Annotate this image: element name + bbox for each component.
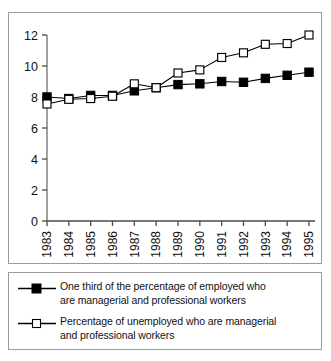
- legend-label-unemployed-line2: and professional workers: [60, 329, 174, 341]
- y-tick-label: 4: [31, 153, 38, 167]
- filled-square-marker-icon: [17, 281, 57, 296]
- legend-label-employed: One third of the percentage of employed …: [60, 280, 266, 307]
- legend-label-unemployed-line1: Percentage of unemployed who are manager…: [60, 315, 276, 327]
- data-point-marker: [261, 40, 269, 48]
- x-tick-label: 1986: [106, 231, 120, 258]
- legend-item-unemployed: Percentage of unemployed who are manager…: [17, 315, 313, 342]
- plot-panel: 024681012 198319841985198619871988198919…: [8, 12, 322, 264]
- y-tick-label: 6: [31, 122, 38, 136]
- x-tick-label: 1993: [259, 231, 273, 258]
- data-point-marker: [239, 78, 247, 86]
- data-point-marker: [305, 31, 313, 39]
- x-tick-label: 1989: [171, 231, 185, 258]
- data-series-group: [43, 31, 313, 108]
- x-tick-label: 1994: [280, 231, 294, 258]
- y-tick-label: 10: [24, 60, 38, 74]
- data-point-marker: [283, 71, 291, 79]
- data-point-marker: [130, 80, 138, 88]
- y-axis: 024681012: [24, 29, 47, 229]
- open-square-marker-icon: [17, 316, 57, 331]
- data-point-marker: [196, 66, 204, 74]
- line-chart-svg: 024681012 198319841985198619871988198919…: [9, 13, 321, 263]
- legend-label-employed-line2: are managerial and professional workers: [60, 294, 246, 306]
- data-point-marker: [174, 69, 182, 77]
- legend-panel: One third of the percentage of employed …: [8, 272, 322, 350]
- y-tick-label: 8: [31, 91, 38, 105]
- x-tick-label: 1991: [215, 231, 229, 258]
- x-tick-label: 1988: [149, 231, 163, 258]
- x-tick-label: 1985: [84, 231, 98, 258]
- data-point-marker: [152, 84, 160, 92]
- data-point-marker: [261, 74, 269, 82]
- y-tick-label: 0: [31, 215, 38, 229]
- data-point-marker: [283, 40, 291, 48]
- data-point-marker: [305, 68, 313, 76]
- data-point-marker: [196, 80, 204, 88]
- y-tick-label: 2: [31, 184, 38, 198]
- data-point-marker: [65, 95, 73, 103]
- data-point-marker: [217, 77, 225, 85]
- legend-item-employed: One third of the percentage of employed …: [17, 280, 313, 307]
- x-tick-label: 1984: [62, 231, 76, 258]
- data-point-marker: [240, 49, 248, 57]
- x-tick-label: 1995: [302, 231, 316, 258]
- legend-label-unemployed: Percentage of unemployed who are manager…: [60, 315, 276, 342]
- chart-figure: 024681012 198319841985198619871988198919…: [0, 0, 331, 361]
- data-point-marker: [218, 53, 226, 61]
- y-tick-label: 12: [24, 29, 38, 43]
- x-tick-label: 1992: [237, 231, 251, 258]
- data-point-marker: [109, 92, 117, 100]
- x-tick-label: 1987: [128, 231, 142, 258]
- data-point-marker: [87, 95, 95, 103]
- data-point-marker: [43, 100, 51, 108]
- x-tick-label: 1983: [40, 231, 54, 258]
- data-point-marker: [174, 80, 182, 88]
- legend-label-employed-line1: One third of the percentage of employed …: [60, 280, 266, 292]
- x-axis: 1983198419851986198719881989199019911992…: [40, 221, 316, 258]
- x-tick-label: 1990: [193, 231, 207, 258]
